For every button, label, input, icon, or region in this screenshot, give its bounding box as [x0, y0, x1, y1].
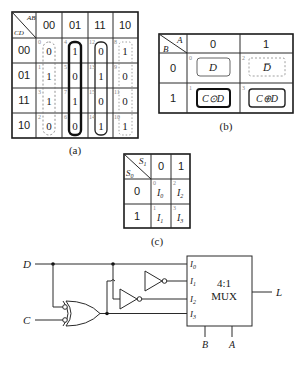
input-d-label: D: [22, 258, 31, 270]
kmap-a: AB CD 00 01 11 10 00 01 11 10 0 0 4 1 12…: [12, 12, 138, 157]
kmap-c-col-header: 0: [158, 160, 164, 172]
kmap-a-corner-bottom: CD: [14, 29, 24, 37]
wire-d-to-inv2: [113, 264, 120, 299]
cell-value: I1: [156, 212, 163, 224]
cell-value: 1: [122, 120, 128, 132]
cell-index: 4: [64, 39, 67, 45]
cell-index: 12: [89, 39, 95, 45]
kmap-c-row-header: 0: [134, 185, 140, 197]
cell-value: 1: [72, 45, 78, 57]
cell-index: 5: [64, 64, 67, 70]
caption-b: (b): [220, 120, 233, 133]
kmap-c: S1 S0 0 1 0 1 0 I0 2 I2 1 I1 3 I3 (c): [124, 154, 190, 248]
cell-value: 1: [122, 45, 128, 57]
cell-index: 11: [114, 89, 120, 95]
cell-value: I2: [176, 187, 183, 199]
cell-index: 0: [38, 39, 41, 45]
kmap-a-col-header: 00: [43, 19, 55, 31]
kmap-a-col-header: 01: [69, 19, 81, 31]
cell-index: 1: [38, 64, 41, 70]
kmap-c-corner-top: S1: [139, 156, 147, 167]
cell-value: 1: [98, 120, 104, 132]
wire-xnor-to-inv1: [107, 281, 111, 314]
cell-index: 6: [64, 114, 67, 120]
cell-value: 0: [122, 70, 128, 82]
inverter-gate-2: [120, 289, 142, 309]
cell-value: 0: [98, 95, 104, 107]
cell-index: 10: [114, 114, 120, 120]
mux-title-line1: 4:1: [217, 277, 231, 289]
cell-index: 3: [38, 89, 41, 95]
caption-a: (a): [69, 144, 82, 157]
inverter-gate-1: [145, 271, 167, 291]
cell-value: C⊕D: [256, 93, 279, 104]
cell-value: C⊙D: [202, 93, 225, 104]
kmap-b-row-header: 0: [170, 62, 176, 74]
cell-value: D̅: [262, 61, 271, 73]
cell-index: 14: [89, 114, 95, 120]
input-c-label: C: [23, 314, 31, 326]
cell-index: 9: [114, 64, 117, 70]
cell-index: 13: [89, 64, 95, 70]
cell-value: 0: [72, 70, 78, 82]
kmap-b: A B 0 1 0 1 0 D 2 D̅ 1 C⊙D 3 C⊕D (b): [159, 34, 293, 133]
xnor-gate: [63, 301, 100, 326]
kmap-c-corner-bottom: S0: [126, 168, 134, 179]
cell-value: I0: [156, 187, 163, 199]
kmap-a-col-header: 10: [119, 19, 131, 31]
kmap-a-row-header: 01: [18, 69, 30, 81]
mux-4to1: I0 I1 I2 I3 4:1 MUX: [187, 256, 252, 326]
kmap-a-row-header: 00: [18, 44, 30, 56]
kmap-b-row-header: 1: [170, 92, 176, 104]
cell-value: 0: [46, 45, 52, 57]
cell-index: 8: [114, 39, 117, 45]
cell-value: D: [208, 61, 217, 73]
cell-index: 3: [173, 205, 176, 211]
cell-index: 2: [242, 55, 245, 61]
kmap-a-row-header: 10: [18, 119, 30, 131]
cell-index: 0: [189, 55, 192, 61]
kmap-a-corner-top: AB: [26, 14, 36, 22]
cell-value: 1: [46, 95, 52, 107]
cell-value: I3: [176, 212, 183, 224]
cell-index: 2: [38, 114, 41, 120]
cell-index: 0: [153, 180, 156, 186]
kmap-b-col-header: 0: [210, 38, 216, 50]
kmap-c-col-header: 1: [178, 160, 184, 172]
kmap-a-col-header: 11: [94, 19, 105, 31]
cell-index: 1: [189, 85, 192, 91]
caption-c: (c): [151, 235, 164, 248]
kmap-c-row-header: 1: [134, 210, 140, 222]
cell-index: 2: [173, 180, 176, 186]
diagram-canvas: AB CD 00 01 11 10 00 01 11 10 0 0 4 1 12…: [0, 0, 307, 370]
kmap-b-corner-top: A: [176, 35, 183, 45]
wire-d-to-xnor: [53, 264, 63, 307]
cell-index: 7: [64, 89, 67, 95]
cell-value: 0: [122, 95, 128, 107]
circuit: D C: [22, 256, 282, 350]
kmap-b-col-header: 1: [263, 38, 269, 50]
cell-value: 1: [46, 70, 52, 82]
cell-index: 15: [89, 89, 95, 95]
cell-index: 1: [153, 205, 156, 211]
cell-index: 3: [242, 85, 245, 91]
cell-value: 0: [72, 120, 78, 132]
kmap-b-corner-bottom: B: [163, 44, 169, 54]
mux-title-line2: MUX: [211, 290, 237, 302]
select-b-label: B: [202, 339, 208, 350]
select-a-label: A: [228, 339, 236, 350]
cell-value: 1: [72, 95, 78, 107]
cell-value: 0: [46, 120, 52, 132]
kmap-a-row-header: 11: [18, 94, 29, 106]
output-l-label: L: [275, 286, 282, 298]
cell-value: 0: [98, 45, 104, 57]
cell-value: 1: [98, 70, 104, 82]
